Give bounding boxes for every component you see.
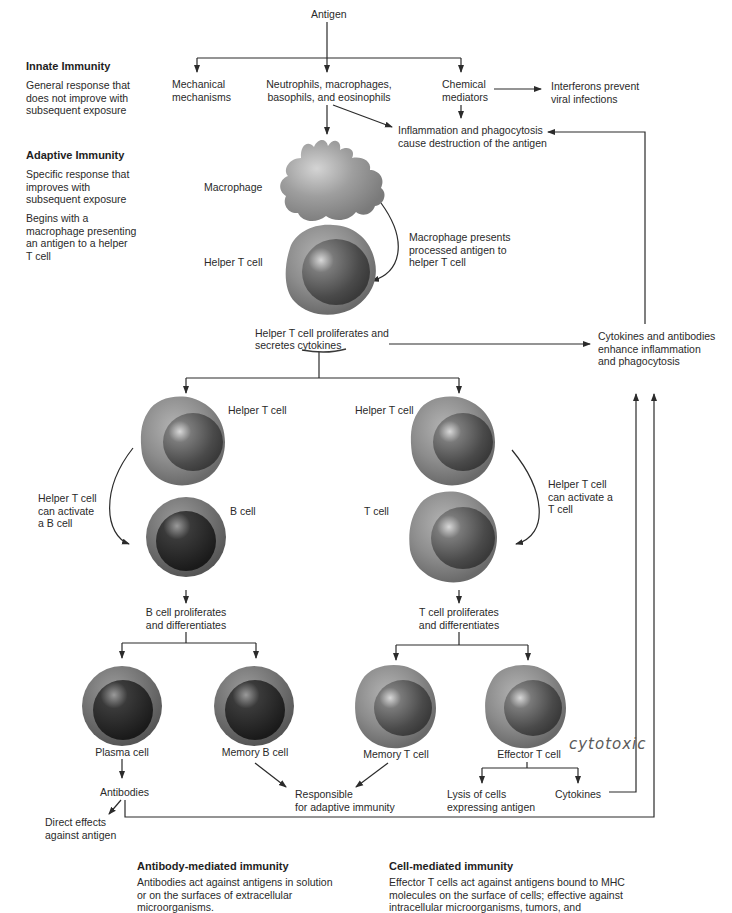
interferons-label: Interferons prevent viral infections	[551, 80, 639, 105]
helper-t-cell-b-branch-icon	[141, 397, 225, 486]
cytokines-underlined-word: cytokines	[298, 339, 342, 351]
helper-t-proliferates-line2: secretes cytokines	[255, 339, 341, 352]
handwritten-cytotoxic-note: cytotoxic	[569, 738, 647, 751]
plasma-cell-icon	[82, 666, 162, 746]
b-cell-icon	[146, 497, 226, 577]
innate-immunity-title: Innate Immunity	[26, 60, 110, 73]
cytokines-label: Cytokines	[555, 788, 601, 801]
chemical-mediators-label: Chemical mediators	[442, 78, 488, 103]
macrophage-presents-note: Macrophage presents processed antigen to…	[409, 231, 511, 269]
helper-t-cell-t-branch-icon	[411, 397, 495, 486]
macrophage-cell-icon	[280, 140, 384, 221]
b-cell-label: B cell	[230, 505, 256, 518]
innate-immunity-description: General response that does not improve w…	[26, 79, 130, 117]
mechanical-mechanisms-label: Mechanical mechanisms	[172, 78, 231, 103]
memory-t-cell-icon	[355, 665, 436, 748]
antibody-mediated-description: Antibodies act against antigens in solut…	[137, 876, 333, 913]
phagocytes-label: Neutrophils, macrophages, basophils, and…	[266, 78, 392, 103]
cell-mediated-description: Effector T cells act against antigens bo…	[389, 876, 625, 913]
adaptive-immunity-description: Specific response that improves with sub…	[26, 168, 129, 206]
b-cell-proliferates-label: B cell proliferates and differentiates	[136, 606, 236, 631]
helper-t-cell-label: Helper T cell	[204, 256, 263, 269]
plasma-cell-label: Plasma cell	[82, 746, 162, 759]
helper-activates-b-note: Helper T cell can activate a B cell	[38, 492, 97, 530]
adaptive-immunity-title: Adaptive Immunity	[26, 149, 124, 162]
adaptive-immunity-note: Begins with a macrophage presenting an a…	[26, 212, 136, 262]
b-branch-helper-t-label: Helper T cell	[228, 404, 287, 417]
t-branch-helper-t-label: Helper T cell	[355, 404, 414, 417]
cell-mediated-title: Cell-mediated immunity	[389, 860, 513, 873]
memory-b-cell-label: Memory B cell	[212, 746, 298, 759]
direct-effects-label: Direct effects against antigen	[45, 816, 116, 841]
helper-t-cell-icon	[286, 225, 376, 315]
effector-t-cell-label: Effector T cell	[488, 748, 570, 761]
cytokines-enhance-label: Cytokines and antibodies enhance inflamm…	[598, 330, 715, 368]
memory-b-cell-icon	[214, 666, 294, 746]
antigen-label: Antigen	[311, 8, 347, 21]
secretes-text: secretes	[255, 339, 298, 351]
effector-t-cell-icon	[485, 665, 566, 748]
inflammation-label: Inflammation and phagocytosis cause dest…	[398, 124, 547, 149]
t-cell-label: T cell	[364, 505, 389, 518]
responsible-adaptive-label: Responsible for adaptive immunity	[295, 788, 395, 813]
connector-arrows	[0, 0, 732, 913]
t-cell-proliferates-label: T cell proliferates and differentiates	[409, 606, 509, 631]
helper-activates-t-note: Helper T cell can activate a T cell	[548, 478, 613, 516]
antibodies-label: Antibodies	[100, 786, 149, 799]
helper-t-proliferates-line1: Helper T cell proliferates and	[255, 327, 389, 340]
macrophage-label: Macrophage	[204, 181, 262, 194]
t-cell-icon	[409, 492, 497, 583]
antibody-mediated-title: Antibody-mediated immunity	[137, 860, 289, 873]
memory-t-cell-label: Memory T cell	[352, 748, 440, 761]
lysis-label: Lysis of cells expressing antigen	[447, 788, 535, 813]
